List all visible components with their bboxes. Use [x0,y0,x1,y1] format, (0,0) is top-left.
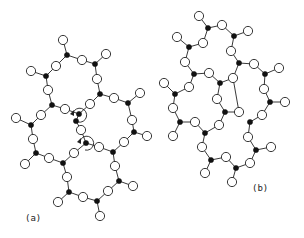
white-atom [135,88,144,97]
black-atom [73,118,78,123]
white-atom [259,84,268,93]
black-atom [233,165,238,170]
black-atom [33,150,38,155]
white-atom [76,125,85,134]
black-atom [208,157,213,162]
white-atom [53,197,62,206]
white-atom [103,186,112,195]
panel-a-ordered-network: (a) [11,35,151,223]
black-atom [116,178,121,183]
white-atom [60,104,69,113]
black-atom [97,91,102,96]
black-atom [231,33,236,38]
white-atom [245,158,254,167]
white-atom [92,74,101,83]
black-atom [66,189,71,194]
white-atom [280,97,289,106]
black-atom [247,119,252,124]
white-atom [194,11,203,20]
white-atom [198,38,207,47]
black-atom [83,140,88,145]
black-atom [191,71,196,76]
white-atom [51,61,60,70]
white-atom [159,78,168,87]
black-atom [110,149,115,154]
arrowhead-icon [77,138,81,144]
white-atom [94,142,103,151]
white-atom [243,132,252,141]
black-atom [177,119,182,124]
white-atom [77,55,86,64]
white-atom [217,20,226,29]
white-atom [184,82,193,91]
black-atom [186,44,191,49]
white-atom [212,94,221,103]
black-atom [125,100,130,105]
black-atom [172,91,177,96]
panel-b-random-network: (b) [159,11,289,193]
white-atom [58,35,67,44]
white-atom [168,103,177,112]
black-atom [222,109,227,114]
panel-a-white-atoms [11,35,151,220]
white-atom [200,168,209,177]
panel-b-black-atoms [172,25,272,170]
white-atom [36,110,45,119]
white-atom [11,113,20,122]
white-atom [85,99,94,108]
white-atom [101,49,110,58]
network-diagram: (a) (b) [0,0,304,238]
white-atom [110,161,119,170]
white-atom [20,159,29,168]
black-atom [131,129,136,134]
white-atom [127,115,136,124]
black-atom [253,147,258,152]
white-atom [228,73,237,82]
white-atom [43,85,52,94]
panel-a-label: (a) [25,213,41,223]
black-atom [28,122,33,127]
white-atom [172,32,181,41]
white-atom [109,93,118,102]
white-atom [227,177,236,186]
white-atom [62,172,71,181]
white-atom [78,192,87,201]
black-atom [202,130,207,135]
white-atom [190,117,199,126]
white-atom [257,110,266,119]
black-atom [94,198,99,203]
white-atom [128,181,137,190]
black-atom [43,73,48,78]
white-atom [249,59,258,68]
black-atom [64,52,69,57]
white-atom [197,142,206,151]
white-atom [168,131,177,140]
black-atom [262,71,267,76]
white-atom [234,107,243,116]
white-atom [95,211,104,220]
black-atom [236,60,241,65]
panel-b-white-atoms [159,11,289,186]
black-atom [267,99,272,104]
white-atom [243,26,252,35]
black-atom [49,102,54,107]
black-atom [76,111,81,116]
white-atom [26,66,35,75]
white-atom [266,142,275,151]
white-atom [221,152,230,161]
bond [233,78,239,112]
white-atom [214,120,223,129]
white-atom [274,63,283,72]
black-atom [205,25,210,30]
white-atom [69,148,78,157]
panel-b-label: (b) [252,183,268,193]
white-atom [119,137,128,146]
white-atom [44,153,53,162]
white-atom [204,68,213,77]
black-atom [60,160,65,165]
white-atom [226,46,235,55]
white-atom [180,57,189,66]
white-atom [142,131,151,140]
white-atom [28,134,37,143]
black-atom [92,61,97,66]
